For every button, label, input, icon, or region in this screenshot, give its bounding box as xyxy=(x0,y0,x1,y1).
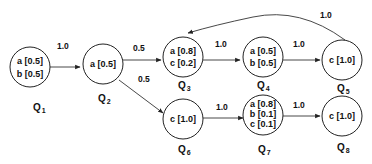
svg-text:c [1.0]: c [1.0] xyxy=(329,55,355,65)
svg-text:Q1: Q1 xyxy=(33,102,46,114)
svg-text:c [0.1]: c [0.1] xyxy=(250,119,276,129)
edge-q7-q8: 1.0 xyxy=(283,100,320,116)
svg-text:Q3: Q3 xyxy=(178,80,191,92)
svg-text:b [0.1]: b [0.1] xyxy=(250,109,277,119)
svg-text:a [0.5]: a [0.5] xyxy=(250,46,276,56)
node-q1: a [0.5] b [0.5] Q1 xyxy=(10,47,50,114)
svg-text:a [0.5]: a [0.5] xyxy=(17,56,43,66)
node-q5: c [1.0] Q5 xyxy=(322,40,362,95)
svg-text:b [0.5]: b [0.5] xyxy=(250,58,277,68)
svg-text:1.0: 1.0 xyxy=(293,39,305,49)
svg-text:a [0.8]: a [0.8] xyxy=(250,99,276,109)
svg-text:Q5: Q5 xyxy=(337,83,350,95)
svg-text:b [0.5]: b [0.5] xyxy=(17,69,44,79)
node-q4: a [0.5] b [0.5] Q4 xyxy=(243,37,283,92)
svg-text:Q8: Q8 xyxy=(337,142,350,154)
svg-text:1.0: 1.0 xyxy=(293,100,305,110)
node-q8: c [1.0] Q8 xyxy=(322,96,362,154)
svg-text:c [1.0]: c [1.0] xyxy=(170,114,196,124)
edge-q2-q6: 0.5 xyxy=(119,74,163,113)
state-diagram: 1.0 0.5 0.5 1.0 1.0 1.0 1.0 1.0 a [0.5] … xyxy=(0,0,372,164)
svg-text:c [1.0]: c [1.0] xyxy=(329,111,355,121)
svg-text:a [0.8]: a [0.8] xyxy=(170,46,196,56)
node-q7: a [0.8] b [0.1] c [0.1] Q7 xyxy=(243,95,283,156)
svg-text:0.5: 0.5 xyxy=(133,43,145,53)
svg-text:0.5: 0.5 xyxy=(138,74,150,84)
svg-text:a [0.5]: a [0.5] xyxy=(90,59,116,69)
edge-q5-q3: 1.0 xyxy=(188,10,345,40)
node-q6: c [1.0] Q6 xyxy=(163,99,203,156)
svg-text:c [0.2]: c [0.2] xyxy=(170,58,196,68)
node-q3: a [0.8] c [0.2] Q3 xyxy=(163,37,203,92)
edge-q4-q5: 1.0 xyxy=(283,39,320,60)
node-q2: a [0.5] Q2 xyxy=(83,44,123,105)
svg-text:Q4: Q4 xyxy=(257,80,270,92)
edge-q3-q4: 1.0 xyxy=(203,39,240,60)
svg-text:1.0: 1.0 xyxy=(57,41,69,51)
edge-q2-q3: 0.5 xyxy=(123,43,161,60)
edge-q6-q7: 1.0 xyxy=(203,102,243,118)
svg-text:1.0: 1.0 xyxy=(216,102,228,112)
svg-text:1.0: 1.0 xyxy=(320,10,332,20)
svg-text:1.0: 1.0 xyxy=(215,39,227,49)
edge-q1-q2: 1.0 xyxy=(50,41,80,67)
svg-text:Q2: Q2 xyxy=(98,93,111,105)
svg-text:Q7: Q7 xyxy=(258,144,271,156)
svg-text:Q6: Q6 xyxy=(178,144,191,156)
